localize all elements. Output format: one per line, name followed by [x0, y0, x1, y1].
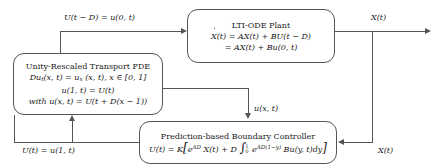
plant-equation-line2: = AX(t) + Bu(0, t) [225, 42, 298, 53]
edge-plant-to-controller-vertical [372, 31, 373, 142]
arrowhead-into-controller-top [245, 113, 251, 119]
edge-plant-output-horizontal [335, 31, 425, 32]
pde-equation-line1: Dut(x, t) = ux (x, t), x ∈ [0, 1] [30, 72, 147, 85]
edge-loop-left-riser [14, 115, 15, 143]
arrowhead-into-pde-bottom [69, 115, 75, 121]
label-plant-output: X(t) [371, 13, 386, 23]
edge-plant-to-controller-horizontal [344, 142, 373, 143]
arrowhead-into-plant [181, 28, 187, 34]
plant-title: LTI-ODE Plant [232, 20, 290, 31]
edge-controller-to-pde-vertical [72, 121, 73, 142]
plant-equation-line1: X(t) = AX(t) + BU(t − D) [211, 31, 311, 42]
edge-controller-to-pde-horizontal [14, 142, 140, 143]
label-controller-to-pde: U(t) = u(1, t) [22, 146, 75, 156]
block-unity-rescaled-transport-pde: Unity-Rescaled Transport PDE Dut(x, t) =… [13, 53, 163, 115]
block-diagram: LTI-ODE Plant X(t) = AX(t) + BU(t − D) =… [0, 0, 434, 168]
edge-pde-to-controller-vertical [248, 88, 249, 114]
arrowhead-plant-output [425, 28, 431, 34]
edge-pde-to-plant-horizontal [60, 31, 181, 32]
arrowhead-into-controller-right [338, 139, 344, 145]
label-pde-to-controller: u(x, t) [254, 104, 278, 114]
block-prediction-based-boundary-controller: Prediction-based Boundary Controller U(t… [139, 121, 337, 164]
label-pde-to-plant: U(t − D) = u(0, t) [64, 13, 135, 23]
pde-title: Unity-Rescaled Transport PDE [26, 61, 150, 72]
controller-equation: U(t) = K[eAD X(t) + D ∫10 eAD(1−y) Bu(y,… [149, 142, 327, 155]
pde-equation-line2: u(1, t) = U(t) [62, 85, 115, 96]
pde-equation-line3: with u(x, t) = U(t + D(x − 1)) [29, 96, 147, 107]
edge-pde-to-plant-vertical [60, 31, 61, 54]
label-plant-to-controller: X(t) [378, 146, 393, 156]
edge-pde-to-controller-horizontal [163, 88, 249, 89]
block-lti-ode-plant: LTI-ODE Plant X(t) = AX(t) + BU(t − D) =… [187, 9, 335, 63]
